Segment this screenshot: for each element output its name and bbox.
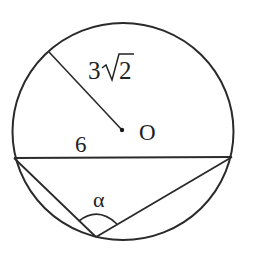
angle-label: α [93,187,105,212]
radius-radicand-label: 2 [119,57,132,84]
center-point [120,128,124,132]
chord-length-label: 6 [75,132,87,157]
center-label: O [139,120,156,145]
radius-coefficient-label: 3 [88,57,101,84]
angle-side-left [14,158,96,237]
chord [14,157,232,158]
circle-diagram: 3 2 6 O α [0,0,254,259]
angle-arc [79,214,117,224]
radius-segment [49,52,122,130]
